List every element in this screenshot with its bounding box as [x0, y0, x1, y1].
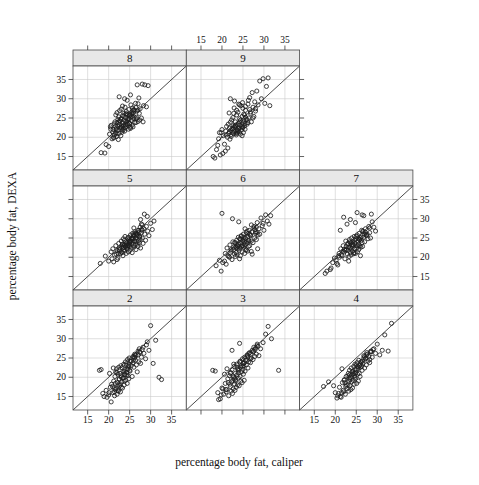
y-tick-label-left: 25: [57, 353, 67, 363]
y-tick-label-left: 20: [57, 132, 67, 142]
x-tick-label-bottom: 35: [167, 415, 177, 425]
x-tick-label-top: 15: [196, 35, 206, 45]
y-tick-label-left: 25: [57, 113, 67, 123]
y-tick-label-left: 30: [57, 334, 67, 344]
x-tick-label-top: 35: [280, 35, 290, 45]
y-tick-label-right: 30: [420, 214, 430, 224]
y-tick-label-right: 35: [420, 195, 430, 205]
y-tick-label-left: 30: [57, 94, 67, 104]
figure-canvas: 89567234 1520253035152025303515202530351…: [0, 0, 479, 485]
panel-8[interactable]: 8: [73, 50, 186, 170]
panel-2[interactable]: 2: [73, 290, 186, 410]
x-tick-label-bottom: 30: [372, 415, 382, 425]
panel-7[interactable]: 7: [300, 170, 413, 290]
trellis-scatterplot-figure: 89567234 1520253035152025303515202530351…: [0, 0, 479, 485]
x-tick-label-bottom: 20: [331, 415, 341, 425]
x-tick-label-top: 25: [238, 35, 248, 45]
x-tick-label-top: 20: [217, 35, 227, 45]
y-tick-label-left: 15: [57, 152, 67, 162]
strip-label-7: 7: [354, 172, 360, 184]
y-tick-label-left: 20: [57, 372, 67, 382]
y-tick-label-right: 15: [420, 272, 430, 282]
x-tick-label-bottom: 25: [352, 415, 362, 425]
x-tick-label-top: 30: [259, 35, 269, 45]
y-tick-label-left: 15: [57, 392, 67, 402]
y-axis-title: percentage body fat, DEXA: [6, 171, 19, 300]
strip-label-8: 8: [127, 52, 133, 64]
panel-3[interactable]: 3: [186, 290, 299, 410]
panel-9[interactable]: 9: [186, 50, 299, 170]
panel-6[interactable]: 6: [186, 170, 299, 290]
x-tick-label-bottom: 15: [83, 415, 93, 425]
y-tick-label-right: 20: [420, 252, 430, 262]
y-tick-label-left: 35: [57, 75, 67, 85]
strip-label-4: 4: [354, 292, 360, 304]
y-tick-label-right: 25: [420, 233, 430, 243]
strip-label-3: 3: [240, 292, 246, 304]
x-tick-label-bottom: 20: [104, 415, 114, 425]
x-tick-label-bottom: 15: [310, 415, 320, 425]
panel-5[interactable]: 5: [73, 170, 186, 290]
strip-label-6: 6: [240, 172, 246, 184]
x-tick-label-bottom: 25: [125, 415, 135, 425]
strip-label-9: 9: [240, 52, 246, 64]
strip-label-2: 2: [127, 292, 133, 304]
x-tick-label-bottom: 30: [146, 415, 156, 425]
y-tick-label-left: 35: [57, 315, 67, 325]
strip-label-5: 5: [127, 172, 133, 184]
x-tick-label-bottom: 35: [393, 415, 403, 425]
x-axis-title: percentage body fat, caliper: [175, 456, 303, 469]
panel-4[interactable]: 4: [300, 290, 413, 410]
